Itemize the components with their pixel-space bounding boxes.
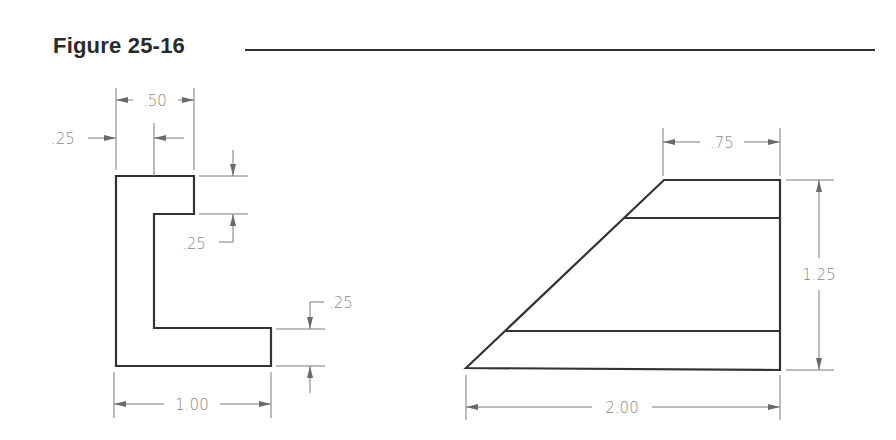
dim-text-025-upper: .25: [182, 235, 206, 253]
dim-bottom-width-200: 2.00: [466, 375, 780, 420]
dim-text-025-offset: .25: [51, 130, 75, 148]
dim-height-125: 1.25: [786, 180, 836, 370]
dim-text-025-lower: .25: [329, 294, 353, 312]
dim-overall-width-100: 1.00: [114, 372, 271, 418]
dim-top-width-075: .75: [663, 128, 780, 176]
dim-text-075: .75: [710, 134, 734, 152]
dim-text-100: 1.00: [175, 396, 208, 414]
dim-text-125: 1.25: [802, 266, 835, 284]
trapezoid-outline: [466, 180, 780, 370]
l-shape-outline: [116, 176, 271, 366]
right-view: .75 1.25 2.00: [466, 128, 836, 420]
dim-text-050: .50: [143, 92, 167, 110]
drawing-canvas: .50 .25 .25: [0, 0, 896, 440]
dim-upper-flange-025: .25: [182, 150, 248, 253]
dim-lower-flange-025: .25: [276, 294, 353, 393]
dim-text-200: 2.00: [605, 399, 638, 417]
dim-top-width-050: .50: [116, 92, 194, 110]
dim-inner-offset-025: .25: [51, 130, 184, 148]
left-view: .50 .25 .25: [51, 88, 353, 418]
